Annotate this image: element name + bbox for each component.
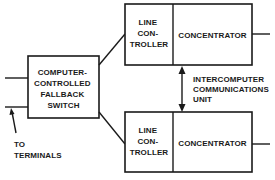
switch-label-line-3: FALLBACK: [40, 90, 84, 99]
terminals-label: TO TERMINALS: [14, 140, 62, 160]
terminals-pointer-arrowhead-icon: [10, 108, 15, 115]
top-unit: LINE CON- TROLLER CONCENTRATOR: [125, 4, 270, 65]
bottom-concentrator-label: CONCENTRATOR: [178, 139, 247, 148]
top-concentrator-label: CONCENTRATOR: [178, 31, 247, 40]
switch-to-bottom-connector: [99, 112, 125, 144]
switch-label-line-2: CONTROLLED: [34, 79, 91, 88]
fallback-switch-diagram: COMPUTER- CONTROLLED FALLBACK SWITCH LIN…: [0, 0, 275, 180]
intercomputer-label: INTERCOMPUTER COMMUNICATIONS UNIT: [193, 75, 271, 104]
terminals-pointer-line: [12, 112, 16, 133]
arrow-down-icon: [179, 104, 186, 112]
switch-to-top-connector: [99, 34, 125, 65]
bottom-unit: LINE CON- TROLLER CONCENTRATOR: [125, 112, 270, 172]
arrow-up-icon: [179, 66, 186, 74]
switch-label-line-4: SWITCH: [47, 101, 79, 110]
switch-label-line-1: COMPUTER-: [38, 68, 88, 77]
